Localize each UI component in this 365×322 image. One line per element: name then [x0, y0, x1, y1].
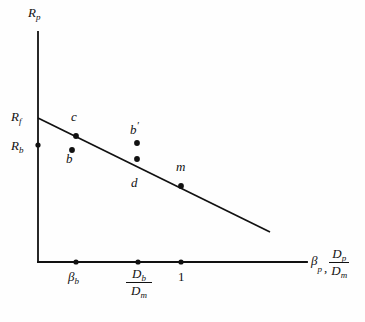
x-tick-dot-one [178, 259, 183, 264]
point-label-b-prime-mark: ′ [137, 119, 139, 131]
x-axis-title: βp , Dp Dm [311, 247, 349, 277]
y-tick-label-Rb-sub: b [19, 145, 24, 155]
x-tick-label-beta-b: βb [68, 270, 79, 283]
x-axis-title-frac-num-sub: p [342, 253, 347, 263]
x-axis-title-fraction: Dp Dm [329, 247, 349, 277]
x-tick-dot-Db-over-Dm [135, 259, 140, 264]
x-tick-label-one-main: 1 [178, 269, 185, 284]
security-market-line-figure: Rp βp , Dp Dm Rf Rb βb Db Dm 1 c b b′ d [0, 0, 365, 322]
x-tick-label-Dm-den-sub: m [140, 290, 147, 300]
data-point-c [73, 133, 79, 139]
x-axis-title-beta-sub: p [317, 264, 322, 274]
x-axis-title-frac-den-sub: m [341, 270, 348, 280]
point-label-m-text: m [176, 159, 185, 174]
x-axis-title-frac-den-main: D [331, 263, 340, 278]
x-axis-title-beta: βp [311, 253, 322, 271]
x-axis-title-fraction-numerator: Dp [329, 247, 349, 261]
point-label-m: m [176, 160, 185, 173]
x-axis-title-fraction-denominator: Dm [329, 264, 349, 278]
y-tick-label-Rf: Rf [11, 110, 21, 123]
point-label-d-text: d [131, 175, 138, 190]
data-point-b-prime [134, 140, 140, 146]
x-axis-title-frac-num-main: D [332, 246, 341, 261]
data-point-m [178, 183, 184, 189]
axes-group [38, 32, 307, 262]
point-label-d: d [131, 176, 138, 189]
x-tick-label-Db-num-sub: b [141, 273, 146, 283]
point-label-b: b [66, 152, 73, 165]
point-label-b-text: b [66, 151, 73, 166]
x-tick-label-Dm-denominator: Dm [126, 284, 152, 298]
point-label-c-text: c [71, 109, 77, 124]
data-point-d [134, 156, 140, 162]
x-tick-label-one: 1 [178, 270, 185, 283]
x-tick-dot-beta-b [73, 259, 78, 264]
y-tick-dot-Rb [35, 142, 40, 147]
y-axis-title: Rp [28, 6, 40, 19]
x-tick-label-beta-b-sub: b [74, 276, 79, 286]
y-axis-title-sub: p [36, 12, 41, 22]
y-tick-label-Rb-main: R [11, 138, 19, 153]
y-tick-label-Rb: Rb [11, 139, 23, 152]
y-axis-title-main: R [28, 5, 36, 20]
x-tick-label-Db-numerator: Db [126, 267, 152, 281]
point-label-b-prime: b′ [130, 120, 139, 136]
x-tick-label-Db-over-Dm: Db Dm [126, 267, 152, 297]
x-axis-title-comma: , [324, 260, 327, 277]
point-label-c: c [71, 110, 77, 123]
security-market-line [38, 118, 270, 232]
y-tick-label-Rf-main: R [11, 109, 19, 124]
